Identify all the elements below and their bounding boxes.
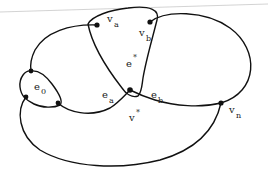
vertex-e0-left xyxy=(24,95,29,100)
svg-text:v: v xyxy=(106,13,113,24)
svg-text:*: * xyxy=(136,108,140,117)
edge-estar-left xyxy=(88,7,158,96)
svg-text:n: n xyxy=(236,111,241,120)
svg-text:v: v xyxy=(138,27,145,38)
vertex-vstar xyxy=(127,87,133,93)
svg-text:a: a xyxy=(109,96,114,105)
svg-text:e: e xyxy=(151,89,157,100)
label-vstar: v * xyxy=(128,108,140,123)
label-va: v a xyxy=(106,13,119,29)
label-eb: e b xyxy=(151,89,163,105)
vertex-e0-right xyxy=(56,101,61,106)
svg-text:e: e xyxy=(102,89,108,100)
svg-text:*: * xyxy=(133,53,137,62)
svg-text:e: e xyxy=(126,58,132,69)
label-vn: v n xyxy=(228,104,241,120)
svg-text:a: a xyxy=(114,20,119,29)
label-e0: e 0 xyxy=(34,81,46,96)
vertex-va xyxy=(94,22,99,27)
edge-ea xyxy=(58,90,130,113)
graph-diagram: v a v b e * e a e b v * v n e 0 xyxy=(0,0,268,179)
label-ea: e a xyxy=(102,89,114,105)
svg-text:v: v xyxy=(228,104,235,115)
svg-text:0: 0 xyxy=(41,87,46,96)
svg-text:b: b xyxy=(146,34,151,43)
vertex-e0-top xyxy=(29,69,34,74)
svg-text:v: v xyxy=(128,112,135,123)
label-vb: v b xyxy=(138,27,151,43)
edge-va-to-e0 xyxy=(31,25,97,71)
svg-text:b: b xyxy=(158,96,163,105)
vertex-vb xyxy=(147,19,152,24)
svg-text:e: e xyxy=(34,81,40,92)
vertex-vn xyxy=(218,100,223,105)
edge-right-loop xyxy=(130,14,251,106)
label-estar: e * xyxy=(126,53,137,69)
